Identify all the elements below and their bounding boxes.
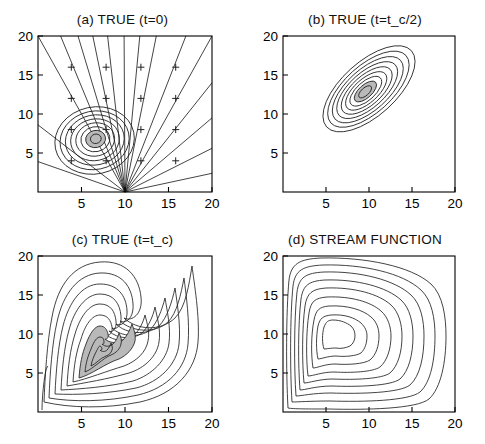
svg-text:5: 5	[270, 146, 278, 161]
svg-text:20: 20	[263, 249, 278, 264]
panel-a-plot: 5 10 15 20 5 10 15 20	[0, 0, 245, 222]
figure-panel-grid: (a) TRUE (t=0)	[0, 0, 485, 444]
panel-d-streamlines	[287, 258, 446, 409]
svg-text:15: 15	[18, 68, 33, 83]
panel-b-y-ticklabels: 5 10 15 20	[263, 29, 278, 161]
panel-c-contours	[42, 262, 198, 410]
panel-c-x-ticklabels: 5 10 15 20	[78, 416, 220, 431]
panel-d-y-ticklabels: 5 10 15 20	[263, 249, 278, 381]
svg-text:10: 10	[117, 416, 132, 431]
svg-text:5: 5	[322, 196, 330, 211]
svg-text:5: 5	[25, 366, 33, 381]
panel-c-axis-box	[38, 256, 212, 412]
svg-text:10: 10	[263, 107, 278, 122]
svg-text:20: 20	[204, 196, 219, 211]
panel-d: (d) STREAM FUNCTION 5 10	[245, 222, 485, 444]
svg-text:15: 15	[404, 196, 419, 211]
panel-c-title: (c) TRUE (t=t_c)	[0, 232, 245, 247]
panel-b: (b) TRUE (t=t_c/2) 5 10	[245, 0, 485, 222]
svg-text:5: 5	[322, 416, 330, 431]
svg-text:5: 5	[25, 146, 33, 161]
svg-text:20: 20	[18, 249, 33, 264]
svg-text:5: 5	[270, 366, 278, 381]
svg-text:10: 10	[18, 327, 33, 342]
svg-text:10: 10	[263, 327, 278, 342]
panel-a-y-ticklabels: 5 10 15 20	[18, 29, 33, 161]
svg-text:20: 20	[204, 416, 219, 431]
svg-text:10: 10	[117, 196, 132, 211]
svg-text:10: 10	[361, 196, 376, 211]
svg-text:10: 10	[361, 416, 376, 431]
panel-c-ticks	[38, 256, 212, 412]
svg-text:10: 10	[18, 107, 33, 122]
svg-text:5: 5	[78, 196, 86, 211]
panel-a-x-ticklabels: 5 10 15 20	[78, 196, 220, 211]
panel-a: (a) TRUE (t=0)	[0, 0, 245, 222]
panel-c: (c) TRUE (t=t_c)	[0, 222, 245, 444]
panel-b-plot: 5 10 15 20 5 10 15 20	[245, 0, 485, 222]
panel-a-plus-markers	[68, 64, 179, 165]
svg-text:20: 20	[263, 29, 278, 44]
panel-b-x-ticklabels: 5 10 15 20	[322, 196, 462, 211]
svg-text:15: 15	[263, 68, 278, 83]
panel-b-contours	[309, 31, 430, 147]
svg-text:15: 15	[263, 288, 278, 303]
panel-c-y-ticklabels: 5 10 15 20	[18, 249, 33, 381]
panel-d-plot: 5 10 15 20 5 10 15 20	[245, 222, 485, 444]
svg-text:15: 15	[161, 196, 176, 211]
svg-text:20: 20	[18, 29, 33, 44]
svg-text:15: 15	[161, 416, 176, 431]
panel-a-title: (a) TRUE (t=0)	[0, 12, 245, 27]
svg-text:15: 15	[404, 416, 419, 431]
panel-d-x-ticklabels: 5 10 15 20	[322, 416, 462, 431]
svg-text:20: 20	[447, 416, 462, 431]
panel-b-title: (b) TRUE (t=t_c/2)	[245, 12, 485, 27]
panel-d-title: (d) STREAM FUNCTION	[245, 232, 485, 247]
svg-text:20: 20	[447, 196, 462, 211]
svg-text:5: 5	[78, 416, 86, 431]
svg-text:15: 15	[18, 288, 33, 303]
panel-c-plot: 5 10 15 20 5 10 15 20	[0, 222, 245, 444]
panel-a-rays	[38, 36, 212, 192]
